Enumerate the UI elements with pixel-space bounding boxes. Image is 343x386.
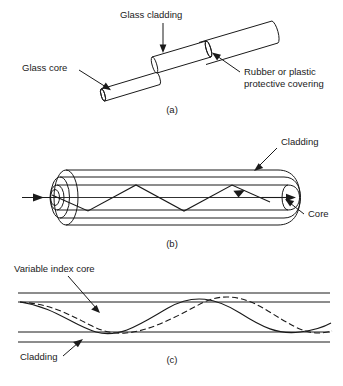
caption-panel-c: (c) xyxy=(166,354,177,365)
label-glass-core: Glass core xyxy=(22,62,67,73)
caption-panel-a: (a) xyxy=(166,104,178,115)
leader-core xyxy=(285,199,304,214)
label-cladding: Cladding xyxy=(281,136,319,147)
leader-cladding xyxy=(254,148,277,171)
leader-glass-cladding xyxy=(160,23,167,53)
label-protective-covering-line1: Rubber or plastic xyxy=(244,66,316,77)
label-cladding-c: Cladding xyxy=(20,351,58,362)
panel-c-graded-index-fiber: Variable index core Cladding (c) xyxy=(0,255,343,386)
fiber-optics-figure: Glass cladding Glass core Rubber or plas… xyxy=(0,0,343,386)
label-protective-covering-line2: protective covering xyxy=(244,78,324,89)
leader-variable-index-core xyxy=(68,276,100,313)
caption-panel-b: (b) xyxy=(166,238,178,249)
label-glass-cladding: Glass cladding xyxy=(120,9,182,20)
panel-b-step-index-fiber: Cladding Core (b) xyxy=(0,125,343,255)
panel-a-fiber-cutaway: Glass cladding Glass core Rubber or plas… xyxy=(0,0,343,125)
protective-covering-tube xyxy=(199,21,279,65)
glass-core-rod xyxy=(100,72,160,101)
leader-glass-core xyxy=(79,70,111,90)
label-variable-index-core: Variable index core xyxy=(14,263,95,274)
zigzag-ray-path xyxy=(52,185,296,211)
label-core: Core xyxy=(308,208,329,219)
